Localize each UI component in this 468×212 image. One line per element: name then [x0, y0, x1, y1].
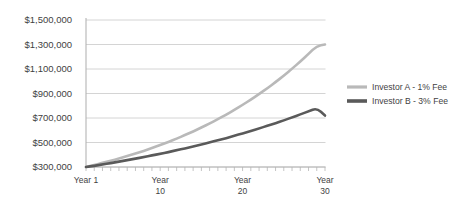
x-axis-tick-label: Year 1: [74, 175, 99, 185]
x-axis-tick-label: 20: [238, 186, 248, 196]
y-axis-tick-label: $1,100,000: [24, 63, 72, 74]
investment-growth-chart: $300,000$500,000$700,000$900,000$1,100,0…: [0, 0, 468, 212]
chart-canvas: $300,000$500,000$700,000$900,000$1,100,0…: [0, 0, 468, 212]
y-axis-tick-label: $900,000: [32, 88, 72, 99]
x-axis-tick-label: Year: [316, 175, 333, 185]
x-axis-tick-label: Year: [152, 175, 169, 185]
y-axis-tick-label: $1,300,000: [24, 39, 72, 50]
y-axis-tick-label: $300,000: [32, 161, 72, 172]
y-axis-tick-label: $1,500,000: [24, 14, 72, 25]
x-axis-tick-label: 10: [155, 186, 165, 196]
legend-label-1: Investor A - 1% Fee: [372, 82, 447, 92]
x-axis-tick-label: 30: [320, 186, 330, 196]
legend-label-2: Investor B - 3% Fee: [372, 96, 448, 106]
y-axis-tick-label: $500,000: [32, 137, 72, 148]
x-axis-tick-label: Year: [234, 175, 251, 185]
y-axis-tick-label: $700,000: [32, 112, 72, 123]
